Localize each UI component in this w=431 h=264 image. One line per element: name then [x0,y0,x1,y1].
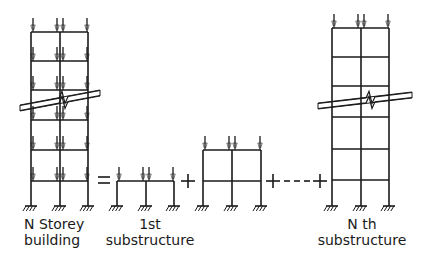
building-label-line1: N Storey [18,216,102,232]
first-label-line2: substructure [100,232,200,248]
nth-label-line1: N th [312,216,412,232]
first-substructure-frame [109,167,180,211]
building-label: N Storey building [18,216,102,248]
nth-substructure-label: N th substructure [312,216,412,248]
plus-sign-3 [313,174,327,188]
equals-sign [98,177,110,183]
nth-substructure-frame [318,14,412,211]
frames [20,14,412,211]
building-label-line2: building [18,232,102,248]
n-storey-building-frame [20,18,100,211]
second-substructure-frame [195,136,267,211]
first-label-line1: 1st [100,216,200,232]
first-substructure-label: 1st substructure [100,216,200,248]
nth-label-line2: substructure [312,232,412,248]
plus-sign-2 [266,174,280,188]
plus-sign-1 [181,174,195,188]
